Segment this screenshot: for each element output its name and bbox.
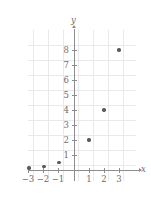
y-tick-3 (72, 125, 77, 126)
gridline-horizontal (28, 60, 136, 61)
gridline-horizontal (28, 150, 136, 151)
x-axis-line (28, 170, 139, 171)
gridline-horizontal (28, 45, 136, 46)
x-tick-2 (104, 168, 105, 173)
scatter-plot-figure: −3 −2 −1 1 2 3 1 2 3 4 5 6 7 8 x y (0, 0, 151, 197)
data-point (117, 48, 120, 51)
y-tick-label: 3 (59, 121, 69, 130)
y-tick-label: 4 (59, 106, 69, 115)
y-tick-8 (72, 50, 77, 51)
x-tick--1 (58, 168, 59, 173)
y-tick-label: 5 (59, 91, 69, 100)
plot-area (28, 30, 136, 181)
data-point (87, 138, 90, 141)
y-tick-2 (72, 140, 77, 141)
data-point (102, 108, 105, 111)
x-tick-1 (89, 168, 90, 173)
y-tick-label: 2 (59, 136, 69, 145)
y-tick-label: 7 (59, 61, 69, 70)
data-point (57, 161, 60, 164)
y-tick-5 (72, 95, 77, 96)
x-tick-label: 1 (83, 175, 95, 184)
y-tick-7 (72, 65, 77, 66)
x-tick--2 (43, 168, 44, 173)
y-tick-1 (72, 155, 77, 156)
x-tick-label: −3 (21, 175, 35, 184)
y-axis-line (74, 29, 75, 181)
y-tick-label: 6 (59, 76, 69, 85)
gridline-horizontal (28, 75, 136, 76)
y-tick-label: 8 (59, 46, 69, 55)
data-point (27, 166, 30, 169)
y-tick-4 (72, 110, 77, 111)
y-axis-arrow-icon (72, 25, 76, 28)
gridline-horizontal (28, 120, 136, 121)
x-tick-label: 2 (98, 175, 110, 184)
gridline-horizontal (28, 135, 136, 136)
x-tick-label: −1 (51, 175, 65, 184)
x-tick-3 (119, 168, 120, 173)
x-tick-label: 3 (113, 175, 125, 184)
x-axis-label: x (141, 165, 146, 174)
data-point (42, 165, 45, 168)
y-tick-6 (72, 80, 77, 81)
gridline-horizontal (28, 105, 136, 106)
gridline-horizontal (28, 90, 136, 91)
x-tick-label: −2 (36, 175, 50, 184)
y-axis-label: y (71, 16, 76, 25)
y-tick-label: 1 (59, 151, 69, 160)
